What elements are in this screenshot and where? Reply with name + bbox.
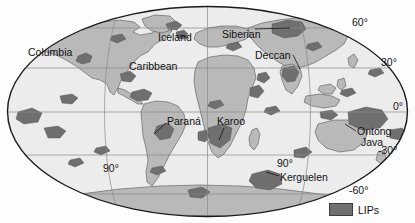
- label-parana: Paraná: [167, 116, 201, 127]
- lip-manihiki: [390, 128, 408, 140]
- meridian-label-90w: 90°: [103, 162, 119, 174]
- lat-label-30s: -30°: [378, 144, 397, 156]
- label-iceland: Iceland: [158, 32, 192, 43]
- label-columbia: Columbia: [28, 47, 72, 58]
- label-kerguelen: Kerguelen: [280, 172, 328, 183]
- lat-label-0: 0°: [393, 100, 403, 112]
- label-siberian: Siberian: [222, 29, 261, 40]
- legend-label-lips: LIPs: [358, 204, 379, 216]
- world-map-figure: Columbia Iceland Siberian Deccan Caribbe…: [0, 0, 415, 223]
- label-karoo: Karoo: [217, 116, 245, 127]
- legend-swatch-lips: [329, 203, 353, 216]
- label-caribbean: Caribbean: [129, 61, 177, 72]
- meridian-label-90e: 90°: [277, 157, 293, 169]
- map-legend: LIPs: [329, 203, 379, 216]
- lat-label-60n: 60°: [352, 16, 368, 28]
- label-deccan: Deccan: [255, 50, 291, 61]
- lat-label-60s: -60°: [349, 184, 368, 196]
- land-ne-siberia-edge: [10, 33, 28, 46]
- lat-label-30n: 30°: [381, 56, 397, 68]
